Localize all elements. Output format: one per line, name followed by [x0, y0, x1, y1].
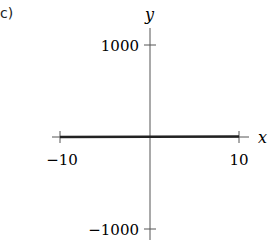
x-tick-label-max: 10 [229, 151, 248, 169]
chart-canvas: y x 1000 −1000 −10 10 [0, 0, 269, 240]
y-tick-label-min: −1000 [88, 221, 139, 239]
plotted-curve [60, 137, 239, 138]
x-axis-label: x [258, 128, 267, 147]
y-axis-label: y [144, 5, 155, 24]
x-tick-label-min: −10 [46, 151, 78, 169]
y-tick-label-max: 1000 [101, 37, 139, 55]
